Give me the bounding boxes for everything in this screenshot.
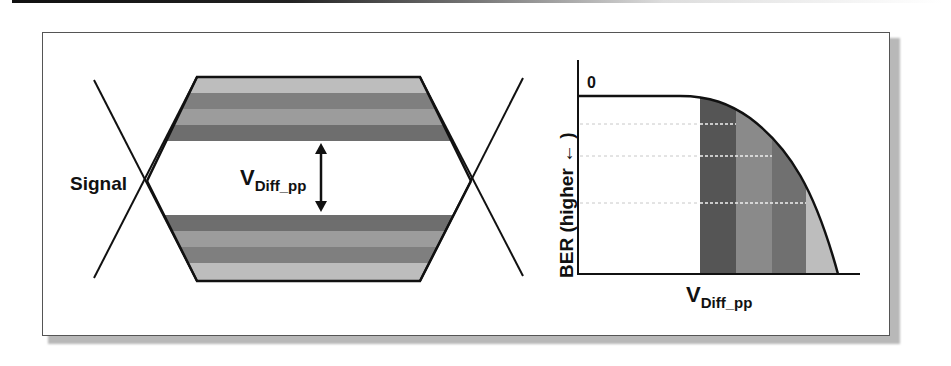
ber-band-3: [772, 60, 806, 275]
signal-label: Signal: [70, 173, 127, 194]
eye-diagram: Signal VDiff_pp: [70, 77, 523, 281]
band-bottom-1: [140, 215, 480, 231]
ber-chart: 0 BER (higher ← ) VDiff_pp: [556, 60, 860, 311]
band-top-4: [140, 125, 480, 141]
ber-band-1: [700, 60, 736, 275]
ber-y-tick-zero: 0: [587, 74, 596, 91]
ber-y-axis-label: BER (higher ← ): [556, 132, 577, 278]
vdiff-label: VDiff_pp: [240, 165, 306, 194]
band-top-3: [140, 109, 480, 125]
ber-band-4: [806, 60, 840, 275]
double-arrow-icon: [315, 143, 327, 212]
ber-band-2: [736, 60, 772, 275]
ber-x-axis-label: VDiff_pp: [686, 282, 752, 311]
eye-bands: [140, 77, 480, 281]
band-bottom-3: [140, 247, 480, 263]
ber-shaded-bands: [700, 60, 840, 275]
band-bottom-2: [140, 231, 480, 247]
figure-canvas: Signal VDiff_pp 0 BER (higher ← ) VDiff_…: [0, 0, 951, 366]
